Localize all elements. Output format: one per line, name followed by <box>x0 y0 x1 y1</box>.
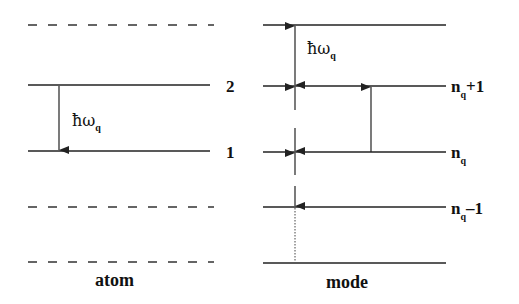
atom-levels <box>28 25 214 262</box>
mode-spacing-label: ħωq <box>307 39 336 61</box>
energy-level-diagram: 2 1 ħωq atom ħωq nq+1 nq nq–1 mode <box>0 0 519 304</box>
atom-level-1-label: 1 <box>226 143 235 162</box>
atom-transition-label: ħωq <box>72 111 101 133</box>
mode-title: mode <box>326 272 368 292</box>
atom-level-2-label: 2 <box>226 77 235 96</box>
mode-levels <box>263 25 446 263</box>
mode-level-nq-plus-1-label: nq+1 <box>451 77 484 100</box>
mode-level-nq-label: nq <box>451 143 466 166</box>
mode-level-nq-minus-1-label: nq–1 <box>451 199 483 222</box>
atom-title: atom <box>95 270 134 290</box>
